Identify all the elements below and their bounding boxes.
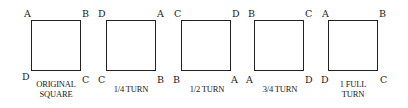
corner-label-top-right: C [305,9,312,19]
corner-label-top-right: B [379,9,386,19]
corner-label-top-left: D [98,9,106,19]
corner-label-top-right: B [82,9,89,19]
square-shape [106,20,156,71]
corner-label-top-right: A [157,9,164,19]
corner-label-bottom-right: C [380,75,387,85]
corner-label-bottom-right: B [157,75,164,85]
square-shape [328,20,378,71]
caption: 1 FULL TURN [330,79,376,99]
caption-line-1: 1/2 TURN [180,84,234,94]
caption-line-2: TURN [330,89,376,99]
caption-line-1: 3/4 TURN [254,84,306,94]
corner-label-bottom-left: A [246,75,253,85]
caption-line-1: 1/4 TURN [104,84,158,94]
caption: 1/2 TURN [180,84,234,94]
panel-full-turn: A B C D 1 FULL TURN [0,0,80,108]
caption: 1/4 TURN [104,84,158,94]
corner-label-bottom-left: B [173,75,180,85]
corner-label-bottom-left: D [321,75,329,85]
corner-label-top-left: B [248,9,255,19]
caption-line-1: 1 FULL [330,79,376,89]
corner-label-bottom-right: D [305,75,313,85]
square-shape [254,20,304,71]
caption: 3/4 TURN [254,84,306,94]
corner-label-top-left: C [174,9,181,19]
corner-label-top-left: A [322,9,329,19]
corner-label-top-right: D [232,9,240,19]
square-shape [181,20,231,71]
